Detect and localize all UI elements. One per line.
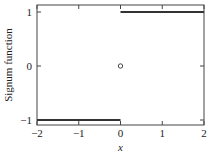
x-tick-label: −2	[31, 127, 43, 139]
x-tick-label: −1	[73, 127, 85, 139]
x-axis-label: x	[117, 141, 123, 153]
data-series	[37, 12, 204, 120]
x-tick-label: 0	[118, 127, 124, 139]
y-tick-label: −1	[20, 114, 32, 126]
open-circle-marker	[118, 64, 122, 68]
y-axis-label: Signum function	[2, 28, 14, 102]
y-axis-ticks: −101	[20, 6, 204, 126]
x-tick-label: 2	[201, 127, 207, 139]
y-tick-label: 0	[27, 60, 33, 72]
x-axis-ticks: −2−1012	[31, 5, 207, 139]
signum-chart: −2−1012 −101 x Signum function	[0, 0, 208, 154]
x-tick-label: 1	[160, 127, 166, 139]
y-tick-label: 1	[27, 6, 33, 18]
